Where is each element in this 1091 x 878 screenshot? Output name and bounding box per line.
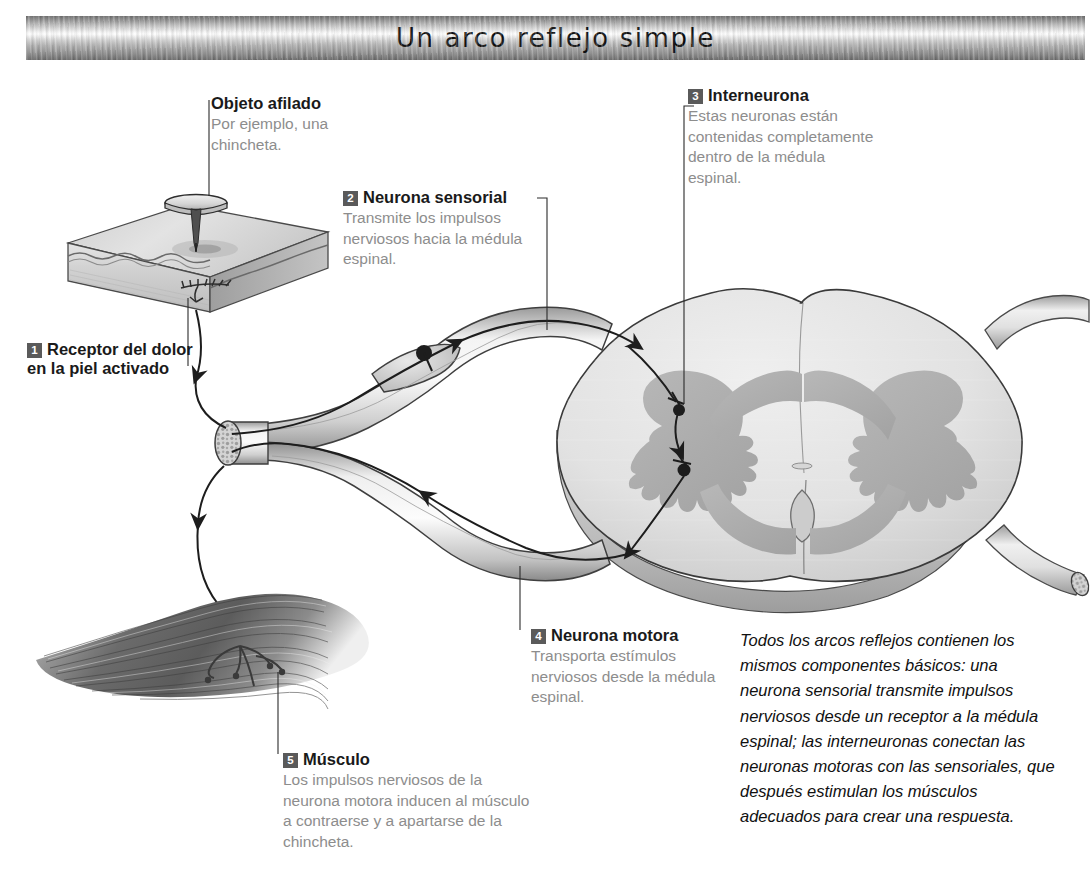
callout-4-motor-neuron: 4Neurona motora Transporta estímulos ner… [531,626,731,708]
callout-sharp-object-body: Por ejemplo, una chincheta. [211,114,371,155]
callout-2-sensory-neuron: 2Neurona sensorial Transmite los impulso… [343,188,543,270]
callout-3-body: Estas neuronas están contenidas completa… [688,106,878,188]
callout-4-heading: 4Neurona motora [531,626,731,645]
callout-1-heading: 1Receptor del dolor en la piel activado [27,340,207,378]
callout-1-heading-text: Receptor del dolor en la piel activado [27,340,193,377]
callout-4-heading-text: Neurona motora [551,626,678,644]
callout-5-muscle: 5Músculo Los impulsos nerviosos de la ne… [283,750,533,852]
callout-1-badge: 1 [27,343,42,358]
callout-3-badge: 3 [688,89,703,104]
callout-5-body: Los impulsos nerviosos de la neurona mot… [283,770,533,852]
callout-1-pain-receptor: 1Receptor del dolor en la piel activado [27,340,207,379]
callout-4-badge: 4 [531,629,546,644]
callout-2-heading: 2Neurona sensorial [343,188,543,207]
callout-3-interneuron: 3Interneurona Estas neuronas están conte… [688,86,878,188]
summary-paragraph: Todos los arcos reflejos contienen los m… [740,628,1060,830]
callout-5-heading-text: Músculo [303,750,370,768]
callout-5-heading: 5Músculo [283,750,533,769]
callout-2-heading-text: Neurona sensorial [363,188,507,206]
muscle-illustration [36,594,369,709]
callout-sharp-object-heading: Objeto afilado [211,94,371,113]
callout-2-badge: 2 [343,191,358,206]
callout-sharp-object: Objeto afilado Por ejemplo, una chinchet… [211,94,371,155]
callout-3-heading-text: Interneurona [708,86,809,104]
callout-4-body: Transporta estímulos nerviosos desde la … [531,646,731,708]
callout-3-heading: 3Interneurona [688,86,878,105]
spinal-cord-cross-section [552,289,1091,613]
callout-5-badge: 5 [283,753,298,768]
callout-2-body: Transmite los impulsos nerviosos hacia l… [343,208,543,270]
reflex-arc-diagram-page: Un arco reflejo simple [0,0,1091,878]
